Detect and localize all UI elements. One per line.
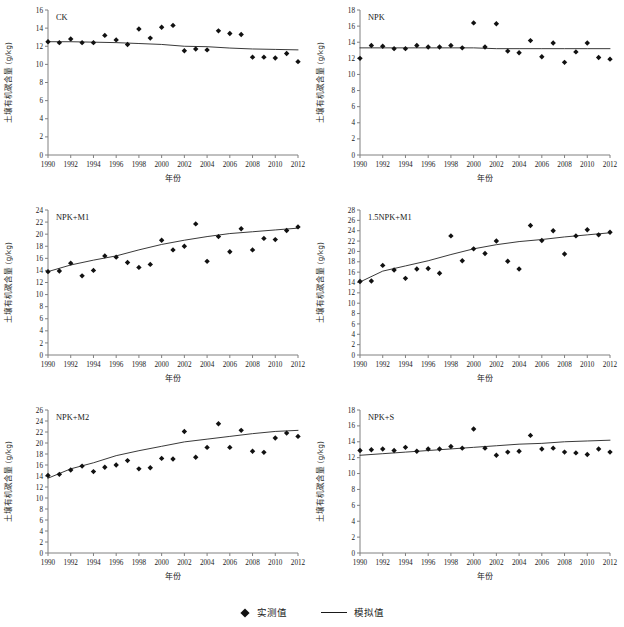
- data-point-marker: [448, 233, 453, 238]
- svg-text:1990: 1990: [41, 559, 56, 567]
- data-point-marker: [357, 279, 362, 284]
- data-point-marker: [460, 445, 465, 450]
- data-point-marker: [227, 31, 232, 36]
- chart-panel-npk-s: 0246810121416181990199219941996199820002…: [312, 400, 624, 598]
- data-point-marker: [550, 445, 555, 450]
- data-point-marker: [295, 59, 300, 64]
- data-point-marker: [425, 266, 430, 271]
- svg-text:2004: 2004: [200, 361, 215, 369]
- svg-text:20: 20: [36, 231, 44, 239]
- x-axis-label: 年份: [477, 571, 493, 581]
- data-point-marker: [482, 251, 487, 256]
- data-point-marker: [261, 54, 266, 59]
- svg-text:12: 12: [36, 43, 44, 51]
- svg-text:4: 4: [351, 518, 355, 526]
- svg-text:2012: 2012: [291, 161, 306, 169]
- svg-text:2: 2: [39, 133, 43, 141]
- data-point-marker: [136, 26, 141, 31]
- x-axis-ticks: 1990199219941996199820002002200420062008…: [41, 355, 306, 369]
- chart-panel-npk-m2: 0246810121416182022242619901992199419961…: [0, 400, 312, 598]
- svg-text:8: 8: [39, 506, 43, 514]
- data-point-marker: [539, 54, 544, 59]
- svg-text:2008: 2008: [245, 161, 260, 169]
- data-point-marker: [471, 20, 476, 25]
- data-point-marker: [437, 44, 442, 49]
- legend-label-measured: 实测值: [257, 608, 287, 618]
- svg-text:16: 16: [348, 422, 356, 430]
- data-point-marker: [414, 43, 419, 48]
- svg-text:10: 10: [348, 470, 356, 478]
- data-point-marker: [273, 435, 278, 440]
- svg-text:16: 16: [36, 255, 44, 263]
- svg-text:2006: 2006: [535, 559, 550, 567]
- simulated-value-line: [48, 42, 298, 50]
- data-point-marker: [238, 428, 243, 433]
- svg-text:2004: 2004: [512, 161, 527, 169]
- svg-text:2012: 2012: [603, 161, 618, 169]
- svg-text:14: 14: [348, 39, 356, 47]
- axes: [48, 10, 298, 155]
- svg-text:2002: 2002: [489, 361, 504, 369]
- data-point-marker: [391, 46, 396, 51]
- svg-text:2006: 2006: [223, 361, 238, 369]
- simulated-value-line: [48, 430, 298, 478]
- svg-text:16: 16: [36, 462, 44, 470]
- legend-item-measured: 实测值: [240, 608, 287, 618]
- axes: [360, 10, 610, 155]
- svg-text:14: 14: [36, 25, 44, 33]
- data-point-marker: [261, 450, 266, 455]
- soil-organic-carbon-figure: 0246810121416199019921994199619982000200…: [0, 0, 624, 627]
- svg-text:6: 6: [39, 97, 43, 105]
- data-point-marker: [596, 232, 601, 237]
- chart-panel-1-5npk-m1: 0246810121416182022242628199019921994199…: [312, 200, 624, 400]
- x-axis-label: 年份: [165, 571, 181, 581]
- data-point-marker: [227, 445, 232, 450]
- svg-text:10: 10: [36, 291, 44, 299]
- svg-text:12: 12: [36, 279, 44, 287]
- svg-text:14: 14: [348, 438, 356, 446]
- panel-title: NPK+M2: [56, 413, 89, 422]
- measured-value-points: [357, 223, 612, 284]
- data-point-marker: [102, 465, 107, 470]
- data-point-marker: [516, 449, 521, 454]
- svg-text:2010: 2010: [580, 161, 595, 169]
- data-point-marker: [238, 32, 243, 37]
- data-point-marker: [148, 262, 153, 267]
- svg-text:1994: 1994: [398, 161, 413, 169]
- svg-text:1990: 1990: [41, 161, 56, 169]
- x-axis-label: 年份: [477, 173, 493, 183]
- svg-text:16: 16: [348, 269, 356, 277]
- panel-title: CK: [56, 13, 68, 22]
- data-point-marker: [573, 450, 578, 455]
- y-axis-ticks: 024681012141618202224: [36, 207, 48, 360]
- data-point-marker: [437, 270, 442, 275]
- svg-text:14: 14: [348, 279, 356, 287]
- svg-text:2002: 2002: [177, 559, 192, 567]
- data-point-marker: [159, 25, 164, 30]
- svg-text:2002: 2002: [489, 559, 504, 567]
- y-axis-ticks: 0246810121416182022242628: [348, 207, 360, 360]
- data-point-marker: [607, 449, 612, 454]
- data-point-marker: [471, 246, 476, 251]
- data-point-marker: [550, 40, 555, 45]
- data-point-marker: [91, 40, 96, 45]
- svg-text:22: 22: [36, 219, 44, 227]
- svg-text:10: 10: [36, 61, 44, 69]
- measured-value-points: [45, 221, 300, 278]
- svg-text:22: 22: [36, 429, 44, 437]
- chart-panel-ck: 0246810121416199019921994199619982000200…: [0, 0, 312, 200]
- data-point-marker: [250, 54, 255, 59]
- measured-value-points: [45, 23, 300, 65]
- data-point-marker: [216, 421, 221, 426]
- svg-text:2006: 2006: [535, 161, 550, 169]
- chart-panel-npk: 0246810121416181990199219941996199820002…: [312, 0, 624, 200]
- data-point-marker: [79, 273, 84, 278]
- svg-text:6: 6: [351, 103, 355, 111]
- data-point-marker: [45, 39, 50, 44]
- svg-text:1992: 1992: [64, 361, 79, 369]
- svg-text:2008: 2008: [245, 559, 260, 567]
- svg-text:4: 4: [39, 327, 43, 335]
- data-point-marker: [136, 265, 141, 270]
- data-point-marker: [170, 247, 175, 252]
- data-point-marker: [148, 35, 153, 40]
